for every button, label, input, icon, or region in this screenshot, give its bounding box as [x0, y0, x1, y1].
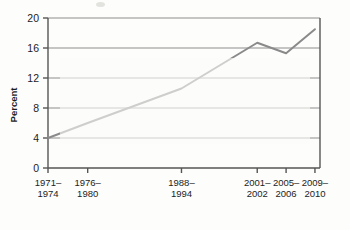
x-tick-label: 2001– — [244, 177, 271, 188]
chart-container: 048121620 1971–19741976–19801988–1994200… — [0, 0, 350, 230]
x-tick-label: 2005– — [273, 177, 300, 188]
y-tick-label: 8 — [33, 102, 39, 114]
y-tick-label: 16 — [27, 42, 39, 54]
x-tick-label: 1994 — [171, 188, 192, 199]
x-tick-label: 1988– — [168, 177, 195, 188]
gridlines-group — [48, 18, 320, 138]
x-tick-label: 2002 — [247, 188, 268, 199]
x-tick-label: 1980 — [77, 188, 98, 199]
x-tick-label: 1974 — [37, 188, 58, 199]
x-tick-marks-group — [48, 168, 315, 173]
x-tick-labels-group: 1971–19741976–19801988–19942001–20022005… — [35, 177, 329, 199]
line-chart-plot: 048121620 1971–19741976–19801988–1994200… — [0, 0, 350, 230]
data-series-line — [48, 29, 315, 138]
y-tick-label: 0 — [33, 162, 39, 174]
x-tick-label: 1971– — [35, 177, 62, 188]
x-tick-label: 2009– — [302, 177, 329, 188]
x-tick-label: 1976– — [74, 177, 101, 188]
y-tick-label: 20 — [27, 12, 39, 24]
y-tick-labels-group: 048121620 — [27, 12, 39, 174]
x-tick-label: 2006 — [276, 188, 297, 199]
x-tick-label: 2010 — [304, 188, 325, 199]
y-tick-marks-group — [43, 18, 48, 168]
y-tick-label: 12 — [27, 72, 39, 84]
y-tick-label: 4 — [33, 132, 39, 144]
y-axis-title: Percent — [8, 87, 19, 123]
